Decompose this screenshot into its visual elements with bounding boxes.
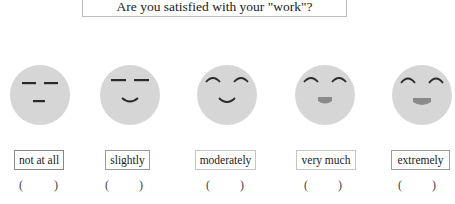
smile-face-icon bbox=[197, 65, 257, 125]
answer-slot-open[interactable]: ( bbox=[304, 178, 308, 193]
answer-slot-open[interactable]: ( bbox=[105, 178, 109, 193]
answer-slot-close[interactable]: ) bbox=[240, 178, 244, 193]
option-very-much[interactable]: very much bbox=[296, 150, 356, 170]
answer-slot-open[interactable]: ( bbox=[206, 178, 210, 193]
answer-slot-close[interactable]: ) bbox=[54, 178, 58, 193]
answer-slot-close[interactable]: ) bbox=[139, 178, 143, 193]
very-happy-face-icon bbox=[392, 65, 452, 125]
answer-slot-close[interactable]: ) bbox=[432, 178, 436, 193]
answer-slot-open[interactable]: ( bbox=[19, 178, 23, 193]
answer-slot-close[interactable]: ) bbox=[338, 178, 342, 193]
option-slightly[interactable]: slightly bbox=[105, 150, 150, 170]
option-not-at-all[interactable]: not at all bbox=[14, 150, 64, 170]
happy-face-icon bbox=[295, 65, 355, 125]
option-extremely[interactable]: extremely bbox=[391, 150, 450, 170]
answer-slot-open[interactable]: ( bbox=[398, 178, 402, 193]
slight-smile-face-icon bbox=[100, 65, 160, 125]
question-title: Are you satisfied with your "work"? bbox=[82, 0, 347, 17]
option-moderately[interactable]: moderately bbox=[195, 150, 256, 170]
neutral-face-icon bbox=[10, 65, 70, 125]
